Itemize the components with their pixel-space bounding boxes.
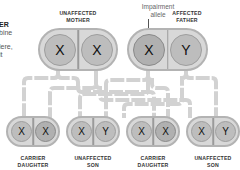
mother-label-line1: UNAFFECTED: [58, 10, 98, 17]
child-2-label: UNAFFECTED SON: [73, 155, 113, 168]
pair-divider: [212, 118, 214, 145]
chromosome-x: X: [44, 34, 76, 66]
chromosome-y: Y: [170, 34, 202, 66]
child-3-label: CARRIER DAUGHTER: [133, 155, 173, 168]
chromosome-x: X: [81, 34, 113, 66]
child-2-chromosome-pair: X Y: [66, 116, 120, 147]
child-4-label: UNAFFECTED SON: [193, 155, 233, 168]
child-4-chromosome-pair: X Y: [186, 116, 240, 147]
child-label-line2: DAUGHTER: [133, 162, 173, 169]
pair-divider: [77, 30, 79, 69]
chromosome-x: X: [131, 121, 152, 142]
chromosome-x: X: [191, 121, 212, 142]
child-label-line2: SON: [73, 162, 113, 169]
chromosome-x-affected: X: [133, 34, 165, 66]
father-label: AFFECTED FATHER: [167, 10, 207, 23]
mother-chromosome-pair: X X: [38, 28, 118, 71]
child-label-line1: UNAFFECTED: [73, 155, 113, 162]
connector-line: [24, 70, 58, 118]
child-1-label: CARRIER DAUGHTER: [13, 155, 53, 168]
pair-divider: [167, 30, 169, 69]
child-label-line1: UNAFFECTED: [193, 155, 233, 162]
father-chromosome-pair: X Y: [127, 28, 208, 71]
pair-divider: [32, 118, 34, 145]
pair-divider: [92, 118, 94, 145]
mother-label: UNAFFECTED MOTHER: [58, 10, 98, 23]
pair-divider: [152, 118, 154, 145]
chromosome-x: X: [11, 121, 32, 142]
mother-label-line2: MOTHER: [58, 17, 98, 24]
child-1-chromosome-pair: X X: [6, 116, 60, 147]
chromosome-y: Y: [95, 121, 116, 142]
chromosome-x-affected: X: [35, 121, 56, 142]
connector-line: [96, 84, 190, 118]
child-label-line2: DAUGHTER: [13, 162, 53, 169]
father-label-line1: AFFECTED: [167, 10, 207, 17]
child-3-chromosome-pair: X X: [126, 116, 180, 147]
father-label-line2: FATHER: [167, 17, 207, 24]
chromosome-y: Y: [215, 121, 236, 142]
chromosome-x: X: [71, 121, 92, 142]
child-label-line2: SON: [193, 162, 233, 169]
chromosome-x-affected: X: [155, 121, 176, 142]
